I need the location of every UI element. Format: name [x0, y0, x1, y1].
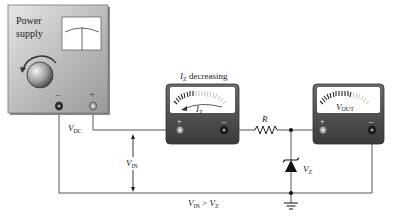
- voltmeter-plus-label: +: [320, 117, 325, 126]
- zener-diode-icon: [285, 160, 297, 172]
- node-bottom: [289, 191, 293, 195]
- vdc-label: VDC: [68, 123, 82, 134]
- zener-regulator-diagram: Power supply – + IZ decreasing: [0, 0, 395, 222]
- vin-label: VIN: [126, 158, 138, 169]
- voltmeter: VOUT + –: [313, 84, 384, 144]
- power-supply-label-1: Power: [16, 15, 42, 26]
- ammeter-plus-label: +: [177, 117, 182, 126]
- zener-diode: VZ: [283, 158, 313, 175]
- node-top: [289, 128, 293, 132]
- resistor: R: [255, 114, 277, 134]
- power-supply: Power supply – +: [8, 5, 110, 115]
- ammeter-caption: IZ decreasing: [179, 71, 228, 82]
- vz-label: VZ: [303, 164, 313, 175]
- power-supply-meter-window: [62, 17, 101, 50]
- power-supply-label-2: supply: [16, 28, 43, 39]
- condition-label: VIN > VZ: [188, 198, 219, 209]
- power-supply-knob[interactable]: [27, 62, 53, 88]
- ground-icon: [284, 203, 298, 209]
- ps-plus-label: +: [90, 90, 95, 99]
- resistor-label: R: [261, 114, 268, 124]
- resistor-icon: [255, 126, 277, 134]
- ammeter: IZ decreasing IZ + –: [166, 71, 239, 144]
